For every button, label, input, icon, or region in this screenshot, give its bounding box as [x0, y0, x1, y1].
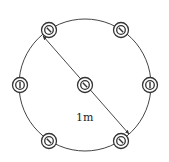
pile-left	[13, 78, 28, 93]
piles-group	[13, 23, 158, 149]
pile-bottom-right	[114, 134, 129, 149]
pile-right	[143, 78, 158, 93]
pile-layout-diagram: 1m	[0, 0, 169, 162]
pile-center	[78, 78, 93, 93]
pile-bottom-left	[42, 134, 57, 149]
pile-top-left	[42, 23, 57, 38]
pile-top-right	[114, 23, 129, 38]
dimension-label: 1m	[76, 111, 94, 124]
